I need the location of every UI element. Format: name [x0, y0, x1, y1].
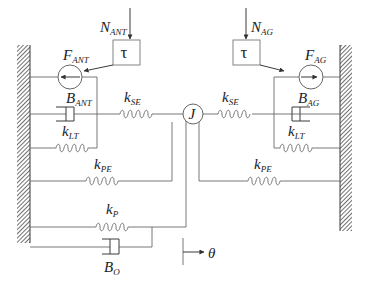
right-torque-input: NAG [246, 8, 274, 39]
left-torque-input: NANT [99, 8, 130, 39]
passive-spring: kP [30, 201, 186, 231]
n-ag-label: NAG [250, 19, 274, 37]
f-ag-label: FAG [304, 47, 327, 65]
right-activation-block: τ [233, 40, 260, 65]
b-ag-label: BAG [298, 90, 320, 108]
left-tendon-spring: kLT [30, 123, 97, 152]
left-parallel-spring: kPE [30, 122, 172, 185]
k-se-left-label: kSE [124, 89, 141, 107]
left-damper: BANT [30, 90, 120, 121]
left-activation-block: τ [113, 40, 140, 65]
right-activation-arrow [260, 65, 284, 71]
k-pe-left-label: kPE [94, 156, 112, 174]
left-activation-arrow [84, 65, 113, 71]
theta-label: θ [208, 245, 216, 261]
f-ant-label: FANT [62, 47, 90, 65]
svg-text:τ: τ [121, 43, 128, 62]
joint-inertia: J [183, 104, 203, 227]
left-series-spring: kSE [120, 89, 183, 118]
b-o-label: BO [104, 259, 120, 277]
k-p-label: kP [106, 201, 119, 219]
left-wall [17, 45, 30, 243]
svg-text:τ: τ [241, 43, 248, 62]
right-tendon-spring: kLT [274, 123, 340, 152]
right-damper: BAG [252, 90, 340, 121]
right-wall [340, 45, 352, 231]
right-series-spring: kSE [203, 89, 250, 118]
theta-displacement-indicator: θ [183, 238, 216, 265]
n-ant-label: NANT [99, 19, 128, 37]
b-ant-label: BANT [66, 90, 93, 108]
k-lt-right-label: kLT [288, 123, 305, 141]
right-parallel-spring: kPE [199, 156, 340, 185]
k-se-right-label: kSE [222, 89, 239, 107]
passive-damper: BO [30, 227, 152, 277]
k-pe-right-label: kPE [254, 156, 272, 174]
k-lt-left-label: kLT [62, 123, 79, 141]
muscle-model-diagram: NANT τ FANT BANT kSE kLT [0, 0, 368, 282]
